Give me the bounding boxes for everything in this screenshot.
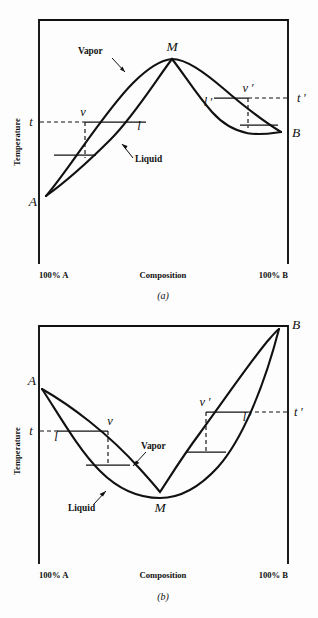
figure-b: Vapor Liquid A B M v l v ′ l ′ t t ′ Tem… (0, 309, 318, 618)
plot-frame-a (39, 20, 288, 264)
point-label-l-prime-a: l ′ (204, 95, 213, 109)
x-right-label-a: 100% B (259, 270, 289, 280)
point-label-l-prime-b: l ′ (243, 410, 252, 424)
point-label-B-a: B (292, 125, 300, 140)
phase-diagram-b: Vapor Liquid A B M v l v ′ l ′ t t ′ Tem… (0, 309, 318, 618)
liquid-curve-a (46, 59, 281, 196)
ytick-label-t-prime-b: t ′ (294, 405, 303, 419)
point-label-v-prime-a: v ′ (243, 81, 254, 95)
point-label-v-prime-b: v ′ (200, 395, 211, 409)
ytick-label-t-b: t (29, 424, 33, 438)
x-left-label-a: 100% A (39, 270, 69, 280)
figure-page: Vapor Liquid A B M v l v ′ l ′ t t ′ Tem… (0, 0, 318, 618)
ytick-label-t-a: t (29, 115, 33, 129)
ytick-label-t-prime-a: t ′ (297, 91, 306, 105)
point-label-v-a: v (80, 105, 86, 119)
vapor-label-b: Vapor (141, 441, 166, 451)
y-axis-label-a: Temperature (12, 118, 22, 166)
figure-a: Vapor Liquid A B M v l v ′ l ′ t t ′ Tem… (0, 0, 318, 309)
liquid-leader-arrow-b (100, 491, 107, 497)
point-label-M-a: M (165, 39, 178, 54)
x-axis-label-a: Composition (140, 270, 187, 280)
point-label-B-b: B (292, 317, 300, 332)
vapor-label-a: Vapor (78, 46, 103, 56)
x-left-label-b: 100% A (39, 570, 69, 580)
point-label-l-b: l (54, 430, 58, 444)
liquid-label-a: Liquid (135, 154, 163, 164)
figure-caption-a: (a) (157, 290, 169, 302)
phase-diagram-a: Vapor Liquid A B M v l v ′ l ′ t t ′ Tem… (0, 0, 318, 309)
vapor-curve-a (46, 59, 281, 196)
point-label-M-b: M (153, 500, 166, 515)
figure-caption-b: (b) (157, 591, 169, 603)
point-label-A-a: A (28, 194, 38, 209)
x-right-label-b: 100% B (259, 570, 289, 580)
point-label-l-a: l (137, 119, 141, 133)
point-label-A-b: A (27, 373, 37, 388)
liquid-label-b: Liquid (68, 503, 96, 513)
y-axis-label-b: Temperature (12, 427, 22, 475)
x-axis-label-b: Composition (140, 570, 187, 580)
liquid-leader-arrow-a (122, 144, 128, 150)
point-label-v-b: v (107, 414, 113, 428)
